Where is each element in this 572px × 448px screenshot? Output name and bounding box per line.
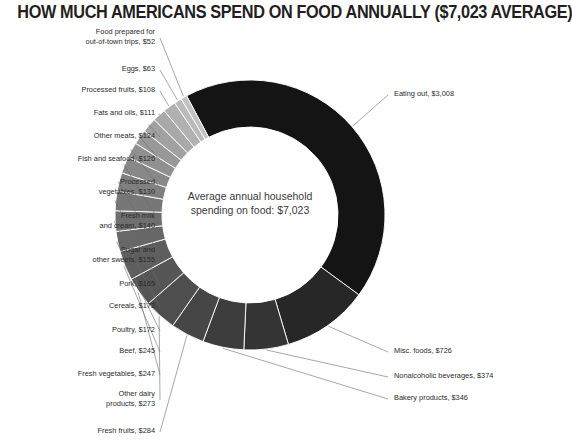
slice-label-line: out-of-town trips, $52 (0, 37, 155, 48)
slice-label-line: Fresh vegetables, $247 (0, 369, 155, 380)
slice-label-line: Sugar and (0, 245, 155, 256)
slice-label-line: Fresh milk (0, 211, 155, 222)
center-annotation: Average annual household spending on foo… (160, 189, 340, 217)
slice-label-line: Misc. foods, $726 (394, 346, 452, 357)
slice-label-pork: Pork, $165 (0, 279, 155, 290)
slice-label-line: products, $273 (0, 399, 155, 410)
slice-label-sugar-and-other-sweets: Sugar andother sweets, $155 (0, 245, 155, 266)
slice-label-line: Processed fruits, $108 (0, 85, 155, 96)
slice-label-line: and cream, $140 (0, 221, 155, 232)
slice-label-beef: Beef, $245 (0, 346, 155, 357)
slice-label-food-prepared-out-of-town: Food prepared forout-of-town trips, $52 (0, 27, 155, 48)
slice-label-fresh-vegetables: Fresh vegetables, $247 (0, 369, 155, 380)
slice-label-line: Fresh fruits, $284 (0, 426, 155, 437)
slice-label-nonalcoholic-beverages: Nonalcoholic beverages, $374 (394, 371, 493, 382)
slice-label-line: Eggs, $63 (0, 64, 155, 75)
leader-line-bakery-products (223, 348, 388, 399)
slice-label-processed-vegetables: Processedvegetables, $130 (0, 177, 155, 198)
slice-label-other-dairy-products: Other dairyproducts, $273 (0, 389, 155, 410)
slice-label-line: Cereals, $172 (0, 301, 155, 312)
slice-label-line: Fish and seafood, $126 (0, 154, 155, 165)
slice-label-line: Fats and oils, $111 (0, 108, 155, 119)
leader-line-eating-out (353, 95, 388, 126)
slice-label-line: Pork, $165 (0, 279, 155, 290)
slice-label-line: Bakery products, $346 (394, 393, 468, 404)
slice-label-fresh-milk-and-cream: Fresh milkand cream, $140 (0, 211, 155, 232)
leader-line-food-prepared-out-of-town (160, 38, 183, 96)
slice-label-fish-and-seafood: Fish and seafood, $126 (0, 154, 155, 165)
slice-label-line: Nonalcoholic beverages, $374 (394, 371, 493, 382)
slice-label-line: Poultry, $172 (0, 325, 155, 336)
slice-label-line: Processed (0, 177, 155, 188)
slice-label-line: Food prepared for (0, 27, 155, 38)
slice-label-cereals: Cereals, $172 (0, 301, 155, 312)
slice-label-line: Beef, $245 (0, 346, 155, 357)
center-line-2: spending on food: $7,023 (160, 203, 340, 217)
slice-label-line: other sweets, $155 (0, 255, 155, 266)
slice-label-bakery-products: Bakery products, $346 (394, 393, 468, 404)
leader-line-fresh-fruits (160, 336, 187, 433)
slice-label-fats-and-oils: Fats and oils, $111 (0, 108, 155, 119)
donut-slice-eating-out[interactable] (187, 80, 385, 295)
slice-label-fresh-fruits: Fresh fruits, $284 (0, 426, 155, 437)
leader-line-misc-foods (328, 326, 388, 352)
slice-label-line: Other meats, $124 (0, 131, 155, 142)
slice-label-other-meats: Other meats, $124 (0, 131, 155, 142)
slice-label-poultry: Poultry, $172 (0, 325, 155, 336)
slice-label-eating-out: Eating out, $3,008 (394, 89, 454, 100)
center-line-1: Average annual household (160, 189, 340, 203)
slice-label-line: vegetables, $130 (0, 187, 155, 198)
slice-label-eggs: Eggs, $63 (0, 64, 155, 75)
slice-label-line: Other dairy (0, 389, 155, 400)
slice-label-misc-foods: Misc. foods, $726 (394, 346, 452, 357)
slice-label-line: Eating out, $3,008 (394, 89, 454, 100)
leader-line-processed-fruits (160, 91, 169, 106)
leader-line-nonalcoholic-beverages (267, 350, 389, 377)
slice-label-processed-fruits: Processed fruits, $108 (0, 85, 155, 96)
